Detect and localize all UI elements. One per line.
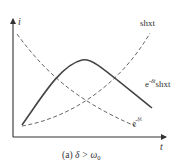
product-label-tail: shxt [155, 79, 171, 89]
y-axis-label: i [18, 16, 21, 27]
product-curve [22, 60, 152, 125]
decay-label-sup: -δt [135, 116, 143, 124]
decay-label: e-δt [131, 116, 144, 129]
shxt-curve [22, 33, 150, 126]
figure-canvas: i t shxt e-δtshxt e-δt (a) δ > ω0 [0, 0, 182, 167]
caption-condition: δ > ω [75, 150, 98, 160]
shxt-label: shxt [140, 18, 156, 28]
caption-subscript: 0 [97, 154, 100, 161]
x-axis-label: t [160, 141, 163, 152]
caption-prefix: (a) [62, 150, 73, 161]
figure-caption: (a) δ > ω0 [62, 150, 100, 161]
product-label: e-δtshxt [145, 78, 171, 89]
